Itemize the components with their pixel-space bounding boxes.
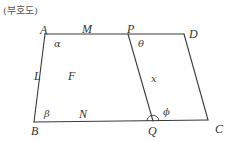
angle-alpha: α bbox=[54, 38, 61, 49]
label-P: P bbox=[126, 22, 135, 36]
label-Q: Q bbox=[148, 124, 157, 138]
label-F: F bbox=[67, 69, 76, 83]
angle-phi: ϕ bbox=[163, 106, 170, 117]
segment-x-label: x bbox=[151, 73, 157, 84]
parallelogram-diagram: (부호도) A M P D B N Q C L F α θ β ϕ x bbox=[0, 0, 238, 141]
label-B: B bbox=[31, 124, 39, 138]
label-A: A bbox=[39, 23, 48, 37]
label-M: M bbox=[81, 22, 93, 36]
angle-beta: β bbox=[43, 108, 50, 119]
bottom-edge-BC bbox=[34, 120, 208, 122]
label-C: C bbox=[215, 122, 224, 136]
right-edge-DC bbox=[184, 34, 208, 120]
label-D: D bbox=[188, 27, 198, 41]
label-N: N bbox=[78, 107, 88, 121]
diagram-caption: (부호도) bbox=[3, 5, 38, 16]
angle-theta: θ bbox=[138, 38, 144, 49]
label-L: L bbox=[33, 69, 41, 83]
